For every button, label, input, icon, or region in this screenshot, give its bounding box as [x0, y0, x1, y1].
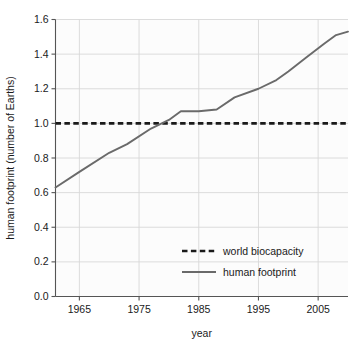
- x-tick-label: 2005: [306, 303, 330, 315]
- y-tick-label: 0.6: [34, 186, 49, 198]
- y-tick-label: 0.0: [34, 290, 49, 302]
- y-tick-label: 0.2: [34, 255, 49, 267]
- line-chart: 0.00.20.40.60.81.01.21.41.61965197519851…: [0, 0, 358, 344]
- y-tick-label: 1.6: [34, 13, 49, 25]
- legend-label: world biocapacity: [222, 245, 304, 257]
- x-tick-label: 1985: [187, 303, 211, 315]
- chart-container: 0.00.20.40.60.81.01.21.41.61965197519851…: [0, 0, 358, 344]
- y-tick-label: 1.4: [34, 48, 49, 60]
- y-tick-label: 1.0: [34, 117, 49, 129]
- y-tick-label: 0.4: [34, 221, 49, 233]
- y-tick-label: 0.8: [34, 152, 49, 164]
- x-tick-label: 1965: [68, 303, 92, 315]
- x-tick-label: 1995: [247, 303, 271, 315]
- legend-label: human footprint: [223, 266, 296, 278]
- x-axis-title: year: [192, 327, 213, 339]
- x-tick-label: 1975: [127, 303, 151, 315]
- y-tick-label: 1.2: [34, 82, 49, 94]
- y-axis-title: human footprint (number of Earths): [4, 76, 16, 239]
